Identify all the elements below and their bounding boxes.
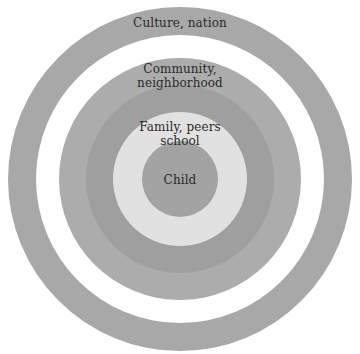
label-community-line1: Community, <box>0 62 360 76</box>
label-community-line2: neighborhood <box>0 76 360 90</box>
ecological-systems-diagram: Culture, nation Community, neighborhood … <box>0 0 360 354</box>
label-family-line1: Family, peers <box>0 120 360 134</box>
label-child: Child <box>0 173 360 187</box>
label-culture-nation: Culture, nation <box>0 16 360 30</box>
label-family-line2: school <box>0 134 360 148</box>
